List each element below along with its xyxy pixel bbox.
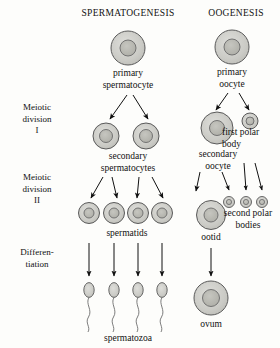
cell-spermatozoon-3 xyxy=(133,283,143,332)
cell-ovum xyxy=(194,281,228,315)
label-line-1: first polar xyxy=(222,127,280,139)
stage-line-1: Differen- xyxy=(2,247,72,259)
label-secondary-spermatocytes: secondary spermatocytes xyxy=(76,151,180,174)
cell-primary-spermatocyte xyxy=(111,31,145,65)
cell-spermatid-2 xyxy=(104,203,125,224)
stage-line-2: division xyxy=(2,184,72,196)
cell-spermatozoon-2 xyxy=(109,283,119,332)
cell-secondary-spermatocyte-right xyxy=(133,123,159,149)
stage-label-meiotic-division-ii: Meiotic division II xyxy=(2,172,72,207)
cell-secondary-spermatocyte-left xyxy=(93,123,119,149)
arrows-differentiation-spermatogenesis xyxy=(89,243,162,276)
arrows-meiosis-ii-oogenesis xyxy=(196,172,229,191)
gametogenesis-diagram: SPERMATOGENESIS OOGENESIS Meiotic divisi… xyxy=(0,0,280,348)
cell-second-polar-body-2 xyxy=(241,197,252,208)
label-line-2: oocyte xyxy=(181,161,255,173)
stage-line-2: tiation xyxy=(2,259,72,271)
label-line-1: second polar xyxy=(215,208,280,220)
stage-line-2: division xyxy=(2,114,72,126)
cell-spermatid-1 xyxy=(79,203,100,224)
label-ootid: ootid xyxy=(189,232,233,244)
label-spermatozoa: spermatozoa xyxy=(86,333,170,345)
label-second-polar-bodies: second polar bodies xyxy=(215,208,280,231)
cell-spermatozoon-1 xyxy=(84,283,94,332)
cell-spermatid-3 xyxy=(128,203,149,224)
cell-spermatid-4 xyxy=(152,203,173,224)
cell-spermatozoon-4 xyxy=(157,283,167,332)
label-primary-spermatocyte: primary spermatocyte xyxy=(78,68,178,91)
stage-line-3: II xyxy=(2,195,72,207)
column-title-spermatogenesis: SPERMATOGENESIS xyxy=(62,8,194,18)
label-line-1: primary xyxy=(78,68,178,80)
label-line-2: body xyxy=(222,139,280,151)
arrows-meiosis-ii-spermatogenesis xyxy=(91,177,163,198)
cell-primary-oocyte xyxy=(215,30,249,64)
stage-label-meiotic-division-i: Meiotic division I xyxy=(2,102,72,137)
cell-second-polar-body-1 xyxy=(224,197,235,208)
label-spermatids: spermatids xyxy=(86,228,168,240)
column-title-oogenesis: OOGENESIS xyxy=(196,8,276,18)
label-line-2: spermatocytes xyxy=(76,163,180,175)
label-primary-oocyte: primary oocyte xyxy=(197,67,267,90)
label-line-1: primary xyxy=(197,67,267,79)
label-line-2: spermatocyte xyxy=(78,80,178,92)
stage-line-3: I xyxy=(2,125,72,137)
arrows-meiosis-i-oogenesis xyxy=(216,93,249,110)
label-line-2: oocyte xyxy=(197,79,267,91)
stage-label-differentiation: Differen- tiation xyxy=(2,247,72,270)
cell-second-polar-body-3 xyxy=(257,197,268,208)
stage-line-1: Meiotic xyxy=(2,102,72,114)
label-line-1: secondary xyxy=(76,151,180,163)
label-line-2: bodies xyxy=(215,220,280,232)
arrows-meiosis-i-spermatogenesis xyxy=(110,95,148,119)
stage-line-1: Meiotic xyxy=(2,172,72,184)
label-secondary-oocyte: secondary oocyte xyxy=(181,149,255,172)
label-line-1: secondary xyxy=(181,149,255,161)
label-ovum: ovum xyxy=(189,319,233,331)
label-first-polar-body: first polar body xyxy=(222,127,280,150)
